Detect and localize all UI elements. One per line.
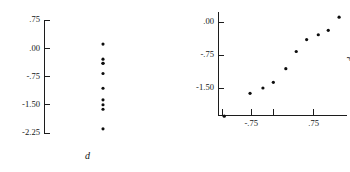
dotplot-data-point [101,58,104,61]
scatter-data-point [272,81,275,84]
scatter-xtick-label: .75 [308,118,319,128]
scatter-ytick-label: -1.50 [196,82,214,92]
panel-scatter: .00-.75-1.50-.75.75 d n scores [175,0,350,172]
scatter-xtick-label: -.75 [244,118,258,128]
dotplot-ytick-label: -.75 [26,71,40,81]
scatter-data-point [261,86,264,89]
dotplot-data-point [101,62,104,65]
scatter-data-point [295,50,298,53]
dotplot-x-axis-title-label: d [85,150,90,161]
two-panel-figure: .75.00-.75-1.50-2.25 d .00-.75-1.50-.75.… [0,0,350,172]
dotplot-ytick-label: .75 [29,14,40,24]
dotplot-x-axis-title: d [0,150,175,161]
dotplot-ytick-label: .00 [29,43,40,53]
scatter-data-point [248,92,251,95]
scatter-y-axis-title-label: d [345,57,350,62]
scatter-data-point [305,38,308,41]
scatter-data-point [223,115,226,118]
dotplot-data-point [101,98,104,101]
dotplot-data-point [101,103,104,106]
dotplot-data-point [101,43,104,46]
scatter-ytick-label: -.75 [200,49,214,59]
dotplot-data-point [101,108,104,111]
scatter-canvas: .00-.75-1.50-.75.75 [175,0,350,172]
scatter-data-point [327,29,330,32]
dotplot-ytick-label: -1.50 [22,99,40,109]
scatter-data-point [284,67,287,70]
dotplot-canvas: .75.00-.75-1.50-2.25 [0,0,175,172]
dotplot-ytick-label: -2.25 [22,127,40,137]
panel-dotplot: .75.00-.75-1.50-2.25 d [0,0,175,172]
scatter-data-point [317,33,320,36]
dotplot-data-point [101,72,104,75]
scatter-data-point [337,16,340,19]
scatter-y-axis-title: d [345,45,350,75]
dotplot-data-point [101,127,104,130]
scatter-ytick-label: .00 [203,16,214,26]
dotplot-data-point [101,87,104,90]
